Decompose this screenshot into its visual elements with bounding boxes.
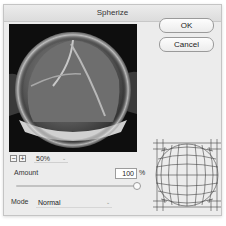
ok-button[interactable]: OK	[159, 18, 214, 33]
plus-icon: +	[20, 155, 24, 162]
amount-input[interactable]: 100	[115, 168, 137, 179]
chevron-down-icon: ⌄	[62, 155, 66, 161]
amount-slider-thumb[interactable]	[133, 182, 141, 190]
mode-value: Normal	[38, 199, 61, 206]
amount-unit: %	[139, 169, 145, 176]
mode-label: Mode	[11, 198, 29, 205]
mode-dropdown[interactable]: Normal ⌄	[36, 197, 112, 208]
zoom-controls: − + 50% ⌄	[10, 154, 68, 163]
minus-icon: −	[11, 155, 15, 162]
spherize-dialog: Spherize	[3, 4, 222, 216]
amount-slider-track[interactable]	[16, 185, 137, 187]
preview-image	[9, 24, 137, 152]
cancel-button[interactable]: Cancel	[159, 37, 214, 52]
zoom-level-value: 50%	[36, 155, 50, 162]
zoom-out-button[interactable]: −	[10, 155, 17, 162]
zoom-in-button[interactable]: +	[19, 155, 26, 162]
chevron-down-icon: ⌄	[106, 199, 110, 205]
zoom-level-dropdown[interactable]: 50% ⌄	[34, 154, 68, 163]
amount-label: Amount	[14, 169, 38, 176]
spherize-grid-preview	[153, 139, 221, 211]
filter-preview[interactable]	[9, 24, 137, 152]
